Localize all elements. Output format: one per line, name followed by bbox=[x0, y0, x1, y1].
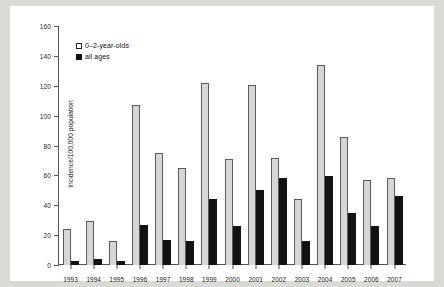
bar-all-ages bbox=[395, 196, 403, 265]
y-axis-tick-label: 20 bbox=[44, 232, 51, 239]
bar-young bbox=[387, 178, 395, 265]
bar-all-ages bbox=[279, 178, 287, 265]
bar-young bbox=[178, 168, 186, 265]
x-axis-tick-label: 2006 bbox=[364, 276, 379, 283]
bar-young bbox=[363, 180, 371, 265]
y-axis-tick-label: 80 bbox=[44, 142, 51, 149]
x-axis-tick-mark bbox=[116, 265, 117, 269]
filled-square-icon bbox=[76, 54, 82, 60]
bar-group: 2003 bbox=[290, 26, 313, 265]
y-axis-tick-mark bbox=[54, 265, 59, 266]
bar-all-ages bbox=[140, 225, 148, 265]
x-axis-tick-label: 2001 bbox=[248, 276, 263, 283]
bar-all-ages bbox=[371, 226, 379, 265]
bar-all-ages bbox=[163, 240, 171, 265]
x-axis-tick-label: 1997 bbox=[156, 276, 171, 283]
bar-group: 2006 bbox=[360, 26, 383, 265]
x-axis-tick-mark bbox=[209, 265, 210, 269]
bar-young bbox=[86, 221, 94, 265]
bar-group: 1997 bbox=[152, 26, 175, 265]
y-axis-tick-label: 140 bbox=[40, 52, 51, 59]
bar-young bbox=[63, 229, 71, 265]
bar-all-ages bbox=[186, 241, 194, 265]
bar-young bbox=[271, 158, 279, 265]
bar-young bbox=[132, 105, 140, 265]
x-axis-tick-mark bbox=[278, 265, 279, 269]
bar-all-ages bbox=[325, 176, 333, 265]
chart-legend: 0–2-year-olds all ages bbox=[76, 40, 129, 62]
bar-group: 1998 bbox=[175, 26, 198, 265]
bar-all-ages bbox=[302, 241, 310, 265]
legend-item-all-ages: all ages bbox=[76, 51, 129, 62]
x-axis-tick-label: 2000 bbox=[225, 276, 240, 283]
x-axis-tick-label: 2005 bbox=[341, 276, 356, 283]
bar-all-ages bbox=[256, 190, 264, 265]
bar-young bbox=[155, 153, 163, 265]
bar-young bbox=[317, 65, 325, 265]
x-axis-tick-label: 1999 bbox=[202, 276, 217, 283]
x-axis-tick-label: 1995 bbox=[110, 276, 125, 283]
bar-young bbox=[225, 159, 233, 265]
legend-label: 0–2-year-olds bbox=[85, 40, 129, 51]
bar-group: 2000 bbox=[221, 26, 244, 265]
bar-group: 2004 bbox=[314, 26, 337, 265]
x-axis-tick-mark bbox=[325, 265, 326, 269]
x-axis-tick-mark bbox=[163, 265, 164, 269]
x-axis-tick-mark bbox=[186, 265, 187, 269]
y-axis-tick-label: 120 bbox=[40, 82, 51, 89]
x-axis-tick-mark bbox=[394, 265, 395, 269]
bar-young bbox=[201, 83, 209, 265]
x-axis-tick-label: 1998 bbox=[179, 276, 194, 283]
x-axis-tick-mark bbox=[139, 265, 140, 269]
chart-figure: Incidence/100,000 population 02040608010… bbox=[10, 6, 434, 281]
x-axis-tick-label: 1993 bbox=[63, 276, 78, 283]
y-axis-tick-label: 40 bbox=[44, 202, 51, 209]
x-axis-tick-mark bbox=[255, 265, 256, 269]
x-axis-tick-mark bbox=[348, 265, 349, 269]
bar-all-ages bbox=[71, 261, 79, 265]
bar-all-ages bbox=[117, 261, 125, 265]
x-axis-tick-label: 2004 bbox=[318, 276, 333, 283]
x-axis-tick-mark bbox=[371, 265, 372, 269]
x-axis-tick-label: 2003 bbox=[295, 276, 310, 283]
y-axis-tick-label: 160 bbox=[40, 23, 51, 30]
bar-group: 1999 bbox=[198, 26, 221, 265]
bar-young bbox=[294, 199, 302, 265]
y-axis-tick-label: 100 bbox=[40, 112, 51, 119]
bar-all-ages bbox=[348, 213, 356, 265]
bar-young bbox=[340, 137, 348, 265]
bar-group: 2007 bbox=[383, 26, 406, 265]
x-axis-tick-mark bbox=[70, 265, 71, 269]
legend-item-0-2-year-olds: 0–2-year-olds bbox=[76, 40, 129, 51]
bar-group: 1996 bbox=[128, 26, 151, 265]
x-axis-tick-mark bbox=[93, 265, 94, 269]
bar-all-ages bbox=[233, 226, 241, 265]
y-axis-tick-label: 0 bbox=[47, 262, 51, 269]
x-axis-tick-label: 2002 bbox=[272, 276, 287, 283]
bar-all-ages bbox=[94, 259, 102, 265]
bar-all-ages bbox=[209, 199, 217, 265]
x-axis-tick-mark bbox=[232, 265, 233, 269]
x-axis-tick-label: 2007 bbox=[387, 276, 402, 283]
bar-group: 2001 bbox=[244, 26, 267, 265]
bar-group: 2005 bbox=[337, 26, 360, 265]
open-square-icon bbox=[76, 43, 82, 49]
bar-young bbox=[248, 85, 256, 265]
legend-label: all ages bbox=[85, 51, 110, 62]
bar-young bbox=[109, 241, 117, 265]
bar-group: 2002 bbox=[267, 26, 290, 265]
x-axis-tick-mark bbox=[301, 265, 302, 269]
x-axis-tick-label: 1994 bbox=[86, 276, 101, 283]
x-axis-tick-label: 1996 bbox=[133, 276, 148, 283]
y-axis-tick-label: 60 bbox=[44, 172, 51, 179]
